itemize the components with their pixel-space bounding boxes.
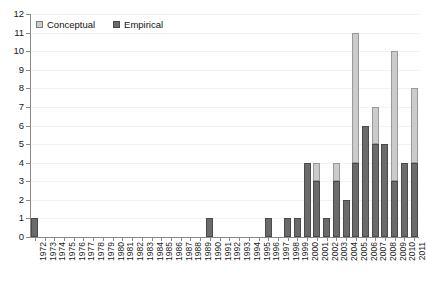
x-axis-tick xyxy=(356,237,357,241)
bar-segment-conceptual[interactable] xyxy=(411,88,418,162)
x-axis-tick-label: 2009 xyxy=(399,242,408,261)
bar-stack[interactable] xyxy=(391,51,398,237)
bar-stack[interactable] xyxy=(294,218,301,237)
x-axis-tick xyxy=(74,237,75,241)
y-axis-tick-label: 9 xyxy=(0,65,24,75)
bar-stack[interactable] xyxy=(31,218,38,237)
bar-segment-empirical[interactable] xyxy=(391,181,398,237)
bar-segment-empirical[interactable] xyxy=(352,163,359,237)
bar-stack[interactable] xyxy=(372,107,379,237)
x-axis-tick-label: 1974 xyxy=(58,242,67,261)
y-axis-tick-label: 7 xyxy=(0,102,24,112)
y-axis-tick-label: 12 xyxy=(0,9,24,19)
bar-segment-empirical[interactable] xyxy=(411,163,418,237)
bar-segment-empirical[interactable] xyxy=(323,218,330,237)
x-axis-tick xyxy=(327,237,328,241)
x-axis-tick-label: 1973 xyxy=(49,242,58,261)
bar-segment-empirical[interactable] xyxy=(401,163,408,237)
x-axis-tick xyxy=(210,237,211,241)
y-axis-tick-label: 2 xyxy=(0,195,24,205)
x-axis-line xyxy=(30,237,419,238)
bar-segment-empirical[interactable] xyxy=(31,218,38,237)
x-axis-tick-label: 1990 xyxy=(214,242,223,261)
chart-legend: Conceptual Empirical xyxy=(36,20,163,30)
x-axis-tick-label: 1976 xyxy=(78,242,87,261)
x-axis-tick-label: 1977 xyxy=(87,242,96,261)
x-axis-tick xyxy=(161,237,162,241)
bar-stack[interactable] xyxy=(352,33,359,237)
bar-segment-empirical[interactable] xyxy=(284,218,291,237)
x-axis-tick xyxy=(307,237,308,241)
bar-segment-empirical[interactable] xyxy=(343,200,350,237)
x-axis-tick-label: 1999 xyxy=(301,242,310,261)
bar-segment-empirical[interactable] xyxy=(304,163,311,237)
bar-stack[interactable] xyxy=(323,218,330,237)
bar-segment-empirical[interactable] xyxy=(372,144,379,237)
x-axis-tick xyxy=(45,237,46,241)
x-axis-tick-label: 1994 xyxy=(253,242,262,261)
x-axis-tick-label: 1996 xyxy=(272,242,281,261)
bar-segment-empirical[interactable] xyxy=(362,126,369,238)
bar-segment-empirical[interactable] xyxy=(381,144,388,237)
x-axis-labels: 1972197319741975197619771978197919801981… xyxy=(30,242,419,285)
x-axis-tick-label: 2006 xyxy=(370,242,379,261)
x-axis-tick-label: 1995 xyxy=(263,242,272,261)
legend-swatch-empirical-icon xyxy=(113,21,120,28)
x-axis-tick-label: 2004 xyxy=(350,242,359,261)
bar-segment-conceptual[interactable] xyxy=(352,33,359,163)
x-axis-tick xyxy=(336,237,337,241)
x-axis-tick-label: 2011 xyxy=(418,242,427,260)
bar-segment-empirical[interactable] xyxy=(265,218,272,237)
x-axis-tick xyxy=(366,237,367,241)
bar-stack[interactable] xyxy=(362,126,369,238)
x-axis-tick xyxy=(113,237,114,241)
bar-stack[interactable] xyxy=(265,218,272,237)
bar-stack[interactable] xyxy=(284,218,291,237)
bar-stack[interactable] xyxy=(313,163,320,237)
x-axis-tick-label: 1987 xyxy=(185,242,194,261)
x-axis-tick xyxy=(375,237,376,241)
x-axis-tick xyxy=(64,237,65,241)
bar-stack[interactable] xyxy=(343,200,350,237)
x-axis-tick xyxy=(278,237,279,241)
x-axis-tick xyxy=(93,237,94,241)
bar-segment-empirical[interactable] xyxy=(313,181,320,237)
bar-segment-empirical[interactable] xyxy=(333,181,340,237)
y-axis-tick-label: 0 xyxy=(0,232,24,242)
y-axis-tick-label: 6 xyxy=(0,121,24,131)
bar-stack[interactable] xyxy=(411,88,418,237)
bar-segment-conceptual[interactable] xyxy=(372,107,379,144)
x-axis-tick xyxy=(395,237,396,241)
bar-stack[interactable] xyxy=(381,144,388,237)
y-axis-tick-label: 3 xyxy=(0,176,24,186)
legend-label-empirical: Empirical xyxy=(124,20,163,30)
legend-item-conceptual[interactable]: Conceptual xyxy=(36,20,95,30)
x-axis-tick-label: 1986 xyxy=(175,242,184,261)
x-axis-tick-label: 1991 xyxy=(224,242,233,261)
x-axis-tick-label: 1992 xyxy=(233,242,242,261)
bar-segment-conceptual[interactable] xyxy=(313,163,320,182)
x-axis-tick-label: 2001 xyxy=(321,242,330,261)
x-axis-tick-label: 1984 xyxy=(156,242,165,261)
bar-segment-conceptual[interactable] xyxy=(333,163,340,182)
legend-swatch-conceptual-icon xyxy=(36,21,43,28)
x-axis-tick-label: 1998 xyxy=(292,242,301,261)
bar-segment-conceptual[interactable] xyxy=(391,51,398,181)
legend-item-empirical[interactable]: Empirical xyxy=(113,20,163,30)
bar-stack[interactable] xyxy=(304,163,311,237)
bar-stack[interactable] xyxy=(401,163,408,237)
y-axis-tick-label: 4 xyxy=(0,158,24,168)
bar-stack[interactable] xyxy=(206,218,213,237)
y-axis-labels: 0123456789101112 xyxy=(0,0,24,285)
x-axis-tick xyxy=(200,237,201,241)
x-axis-tick-label: 2010 xyxy=(408,242,417,261)
x-axis-tick-label: 2007 xyxy=(379,242,388,261)
bar-segment-empirical[interactable] xyxy=(294,218,301,237)
x-axis-tick-label: 2000 xyxy=(311,242,320,261)
bar-stack[interactable] xyxy=(333,163,340,237)
x-axis-tick xyxy=(239,237,240,241)
bar-segment-empirical[interactable] xyxy=(206,218,213,237)
x-axis-tick-label: 1980 xyxy=(117,242,126,261)
x-axis-tick xyxy=(346,237,347,241)
x-axis-tick-label: 1972 xyxy=(39,242,48,261)
